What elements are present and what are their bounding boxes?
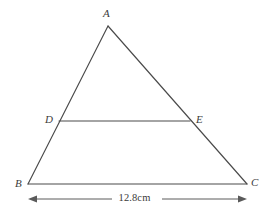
dimension-label-base-length: 12.8cm xyxy=(0,193,269,204)
vertex-label-C: C xyxy=(251,177,258,188)
vertex-label-A: A xyxy=(103,8,110,19)
geometry-figure: A B C D E 12.8cm xyxy=(0,0,269,216)
vertex-label-D: D xyxy=(45,114,53,125)
vertex-label-E: E xyxy=(196,114,203,125)
vertex-label-B: B xyxy=(15,178,22,189)
geometry-canvas xyxy=(0,0,269,216)
side-AC xyxy=(108,26,247,184)
side-AB xyxy=(28,26,108,184)
